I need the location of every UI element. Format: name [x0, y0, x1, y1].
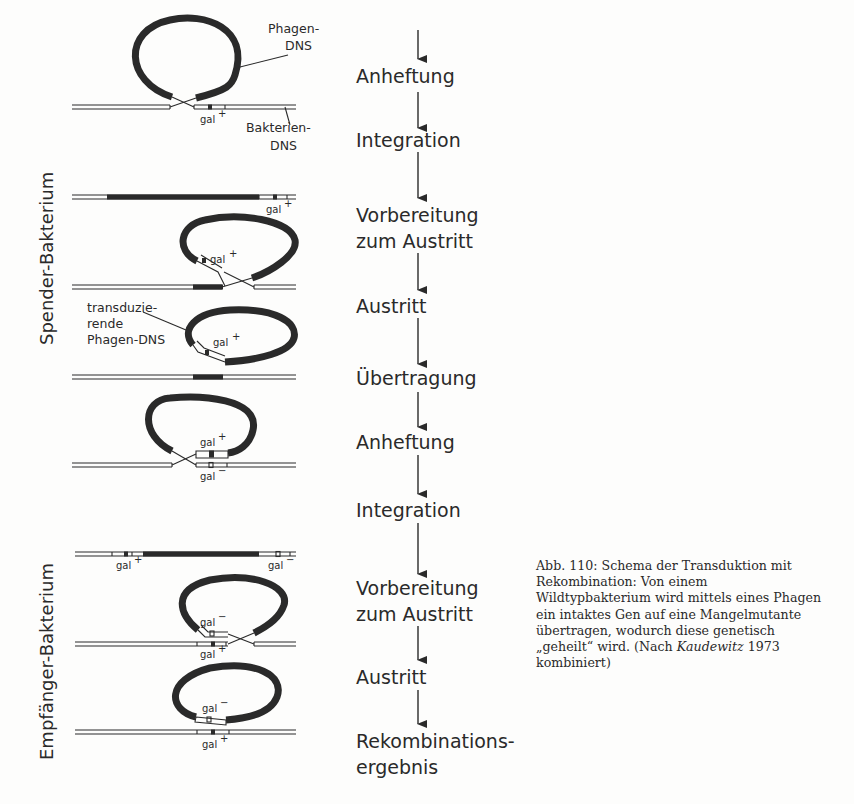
gal-minus-label: gal [200, 617, 215, 628]
gal-minus-label: gal [202, 703, 217, 714]
gal-plus-label: gal [210, 254, 225, 265]
step-prepare-exit-1-line2: zum Austritt [356, 230, 473, 252]
donor-integrated-stage [72, 195, 296, 200]
transducing-phage-label: transduzie- [87, 300, 157, 315]
svg-text:−: − [218, 611, 226, 622]
step-prepare-exit-2-line1: Vorbereitung [356, 577, 479, 599]
gal-minus-label: gal [268, 560, 283, 571]
svg-text:−: − [286, 554, 294, 565]
recipient-prepare-exit-stage [75, 578, 296, 647]
svg-text:+: + [134, 554, 142, 565]
svg-text:+: + [229, 248, 237, 259]
step-prepare-exit-2-line2: zum Austritt [356, 603, 473, 625]
step-recombination-result-line1: Rekombinations- [356, 730, 515, 752]
svg-text:+: + [218, 108, 226, 119]
gal-plus-label: gal [116, 560, 131, 571]
gal-plus-label: gal [200, 649, 215, 660]
step-attachment-2: Anheftung [356, 431, 455, 453]
svg-text:+: + [218, 643, 226, 654]
gal-plus-marker [273, 195, 277, 200]
step-attachment-1: Anheftung [356, 65, 455, 87]
svg-text:−: − [218, 465, 226, 476]
gal-plus-label: gal [266, 204, 281, 215]
phage-dna-label: Phagen- [268, 21, 319, 36]
step-prepare-exit-1-line1: Vorbereitung [356, 204, 479, 226]
svg-text:+: + [220, 733, 228, 744]
caption-author: Kaudewitz [677, 639, 744, 654]
gal-minus-label: gal [200, 471, 215, 482]
recipient-bacterium-label: Empfänger-Bakterium [36, 563, 57, 760]
donor-attachment-stage [72, 18, 296, 125]
svg-text:+: + [284, 198, 292, 209]
step-transfer: Übertragung [356, 367, 477, 389]
gal-plus-label: gal [213, 337, 228, 348]
svg-text:+: + [232, 331, 240, 342]
recipient-integrated-stage [75, 552, 296, 557]
step-exit-2: Austritt [356, 666, 426, 688]
step-integration-1: Integration [356, 129, 461, 151]
figure-caption: Abb. 110: Schema der Transduktion mit Re… [536, 558, 826, 671]
transduction-diagram: Spender-Bakterium Empfänger-Bakterium An… [0, 0, 854, 804]
gal-plus-marker [208, 105, 212, 110]
svg-text:DNS: DNS [270, 138, 297, 153]
svg-text:+: + [218, 431, 226, 442]
recombination-result-stage [75, 666, 296, 735]
gal-plus-label: gal [200, 437, 215, 448]
donor-bacterium-label: Spender-Bakterium [36, 172, 57, 345]
recipient-attachment-stage [72, 397, 296, 467]
svg-text:−: − [220, 697, 228, 708]
donor-prepare-exit-stage [72, 217, 296, 290]
svg-text:DNS: DNS [285, 38, 312, 53]
prophage-segment [107, 195, 259, 200]
gal-plus-label: gal [200, 114, 215, 125]
bacterial-dna-label: Bakterien- [246, 120, 311, 135]
step-integration-2: Integration [356, 499, 461, 521]
step-recombination-result-line2: ergebnis [356, 756, 438, 778]
svg-text:Phagen-DNS: Phagen-DNS [87, 332, 165, 347]
step-exit-1: Austritt [356, 295, 426, 317]
gal-plus-label: gal [202, 739, 217, 750]
svg-text:rende: rende [87, 316, 123, 331]
